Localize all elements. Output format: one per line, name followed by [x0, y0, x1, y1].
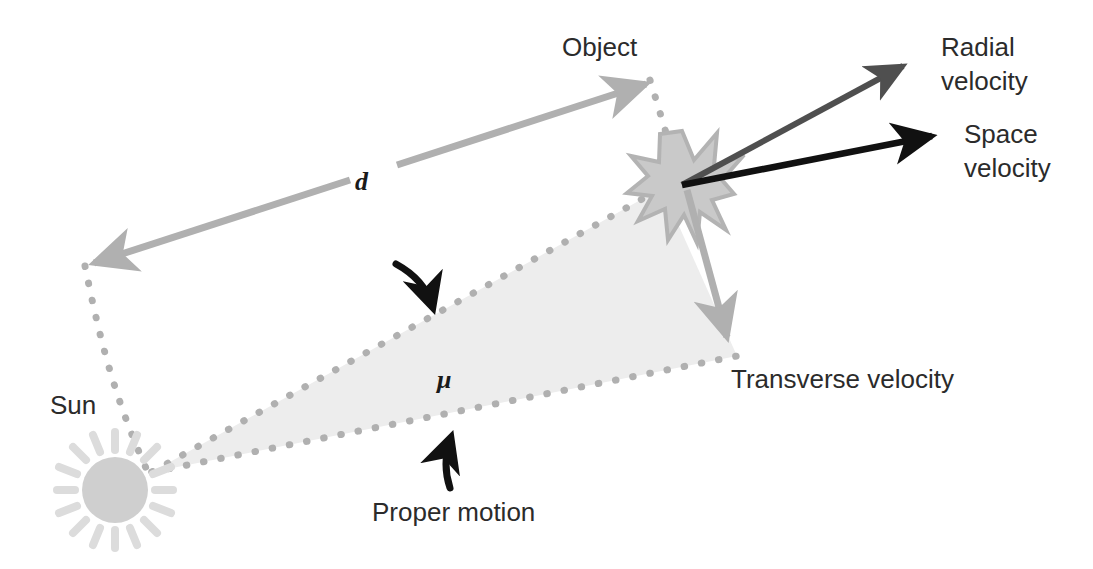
mu-pointer-curved-arrow [396, 264, 432, 305]
sun-disc [82, 457, 148, 523]
astronomy-diagram: Object Sun d μ Radial velocity Space vel… [0, 0, 1093, 569]
proper-motion-wedge [152, 188, 737, 472]
distance-arrow [94, 84, 646, 263]
space-velocity-arrow [682, 136, 932, 185]
diagram-canvas: Object Sun d μ Radial velocity Space vel… [0, 0, 1093, 569]
proper-motion-pointer-curved-arrow [446, 440, 450, 488]
radial-velocity-label-line1: Radial [941, 32, 1015, 62]
space-velocity-label-line2: velocity [964, 153, 1051, 183]
radial-velocity-arrow [682, 66, 903, 185]
proper-motion-label: Proper motion [372, 497, 535, 527]
radial-velocity-label-line2: velocity [941, 66, 1028, 96]
proper-motion-angle-label: μ [435, 365, 451, 394]
sun-glyph [57, 432, 173, 548]
transverse-velocity-label: Transverse velocity [731, 364, 954, 394]
distance-arrow-left-segment [94, 180, 350, 263]
wedge-fill [152, 188, 737, 472]
sun-label: Sun [50, 390, 96, 420]
space-velocity-label-line1: Space [964, 119, 1038, 149]
velocity-vectors [682, 66, 932, 337]
distance-arrow-right-segment [397, 84, 646, 165]
object-label: Object [562, 32, 638, 62]
distance-label: d [355, 167, 369, 196]
